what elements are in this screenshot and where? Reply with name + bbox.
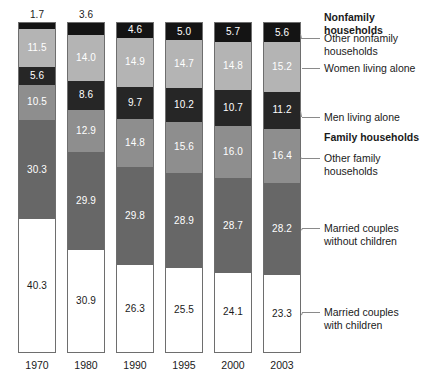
x-axis-tick-label: 2000 — [221, 359, 244, 371]
x-axis-tick-label: 1995 — [172, 359, 195, 371]
bar-segment[interactable]: 28.2 — [264, 183, 300, 276]
segment-value-label: 23.3 — [272, 309, 292, 319]
segment-value-label: 10.7 — [223, 103, 243, 113]
legend-item-label[interactable]: Married couples without children — [324, 222, 399, 247]
legend-leader-line — [302, 38, 320, 39]
bar-segment[interactable]: 29.9 — [68, 152, 104, 250]
stacked-bar[interactable]: 4.614.99.714.829.826.3 — [116, 22, 154, 353]
stacked-bar[interactable]: 1.711.55.610.530.340.3 — [18, 22, 56, 353]
bar-group-1990: 4.614.99.714.829.826.31990 — [116, 22, 154, 353]
segment-value-label: 15.2 — [272, 62, 292, 72]
bar-segment[interactable]: 4.6 — [117, 23, 153, 38]
segment-value-label: 5.6 — [30, 71, 44, 81]
bar-segment[interactable]: 16.0 — [215, 126, 251, 179]
segment-value-label: 15.6 — [174, 142, 194, 152]
bar-segment[interactable]: 30.3 — [19, 120, 55, 220]
legend-leader-line — [302, 117, 320, 118]
bar-segment[interactable]: 5.0 — [166, 23, 202, 39]
stacked-bar[interactable]: 5.615.211.216.428.223.3 — [263, 22, 301, 353]
legend-leader-connector — [300, 157, 302, 159]
bar-segment[interactable]: 10.5 — [19, 85, 55, 120]
legend-group-heading: Family households — [324, 131, 419, 144]
legend-item-label[interactable]: Men living alone — [324, 111, 400, 124]
bar-segment[interactable]: 8.6 — [68, 81, 104, 109]
segment-value-label: 29.9 — [76, 196, 96, 206]
legend-item-label[interactable]: Other family households — [324, 152, 381, 177]
bar-segment[interactable]: 26.3 — [117, 265, 153, 352]
legend-leader-line — [302, 158, 320, 159]
segment-value-label: 11.5 — [27, 43, 46, 53]
legend-leader-line — [302, 68, 320, 69]
bar-segment[interactable]: 11.2 — [264, 92, 300, 129]
segment-value-label: 14.8 — [125, 138, 145, 148]
segment-value-label: 5.7 — [226, 27, 240, 37]
bar-segment[interactable]: 40.3 — [19, 219, 55, 352]
bar-group-1995: 5.014.710.215.628.925.51995 — [165, 22, 203, 353]
legend-item-label[interactable]: Women living alone — [324, 62, 415, 75]
bar-segment[interactable]: 12.9 — [68, 110, 104, 152]
bar-segment[interactable]: 10.7 — [215, 90, 251, 125]
chart-plot-area: 1.711.55.610.530.340.319703.614.08.612.9… — [0, 0, 300, 386]
legend-leader-connector — [301, 312, 303, 315]
bar-segment[interactable]: 5.6 — [19, 67, 55, 85]
segment-value-label: 14.9 — [125, 57, 145, 67]
segment-value-label: 28.2 — [272, 224, 292, 234]
bar-segment[interactable]: 14.8 — [117, 119, 153, 168]
bar-segment[interactable]: 14.9 — [117, 38, 153, 87]
segment-value-label: 25.5 — [174, 305, 194, 315]
bar-segment[interactable]: 23.3 — [264, 275, 300, 352]
segment-value-label: 30.3 — [27, 165, 47, 175]
bar-segment[interactable]: 24.1 — [215, 273, 251, 352]
bar-segment[interactable]: 14.8 — [215, 42, 251, 91]
stacked-bar[interactable]: 5.714.810.716.028.724.1 — [214, 22, 252, 353]
bar-segment[interactable]: 29.8 — [117, 167, 153, 265]
x-axis-tick-label: 1980 — [74, 359, 97, 371]
segment-value-label: 30.9 — [76, 296, 96, 306]
segment-value-label: 10.2 — [174, 100, 194, 110]
segment-value-label: 28.7 — [223, 221, 243, 231]
bar-segment[interactable]: 9.7 — [117, 87, 153, 119]
bar-segment[interactable]: 14.7 — [166, 40, 202, 88]
stacked-bar[interactable]: 5.014.710.215.628.925.5 — [165, 22, 203, 353]
bar-segment[interactable]: 15.2 — [264, 42, 300, 92]
segment-value-label: 8.6 — [79, 90, 93, 100]
x-axis-tick-label: 1990 — [123, 359, 146, 371]
segment-value-label: 11.2 — [272, 105, 291, 115]
segment-value-label: 3.6 — [79, 10, 93, 20]
bar-group-1970: 1.711.55.610.530.340.31970 — [18, 22, 56, 353]
segment-value-label: 14.7 — [174, 59, 194, 69]
bar-segment[interactable]: 15.6 — [166, 122, 202, 173]
bar-segment[interactable]: 28.9 — [166, 173, 202, 268]
segment-value-label: 40.3 — [27, 281, 47, 291]
legend-item-label[interactable]: Other nonfamily households — [324, 32, 398, 57]
bar-segment[interactable]: 16.4 — [264, 129, 300, 183]
bar-segment[interactable]: 28.7 — [215, 178, 251, 272]
bar-segment[interactable]: 5.6 — [264, 23, 300, 41]
bar-group-2003: 5.615.211.216.428.223.32003 — [263, 22, 301, 353]
chart-legend: Nonfamily householdsOther nonfamily hous… — [300, 0, 427, 386]
segment-value-label: 5.6 — [275, 28, 289, 38]
bar-segment[interactable]: 3.6 — [68, 23, 104, 35]
segment-value-label: 16.0 — [223, 147, 243, 157]
segment-value-label: 4.6 — [128, 25, 142, 35]
bar-segment[interactable]: 14.0 — [68, 35, 104, 81]
segment-value-label: 26.3 — [125, 304, 145, 314]
segment-value-label: 9.7 — [128, 98, 142, 108]
bar-segment[interactable]: 5.7 — [215, 23, 251, 42]
legend-item-label[interactable]: Married couples with children — [324, 306, 399, 331]
segment-value-label: 29.8 — [125, 211, 145, 221]
stacked-bar[interactable]: 3.614.08.612.929.930.9 — [67, 22, 105, 353]
segment-value-label: 16.4 — [272, 151, 292, 161]
segment-value-label: 10.5 — [27, 97, 47, 107]
legend-leader-line — [302, 312, 320, 313]
bar-segment[interactable]: 30.9 — [68, 250, 104, 352]
bar-segment[interactable]: 25.5 — [166, 268, 202, 352]
segment-value-label: 12.9 — [76, 126, 96, 136]
segment-value-label: 28.9 — [174, 216, 194, 226]
legend-leader-connector — [301, 228, 303, 230]
x-axis-tick-label: 1970 — [25, 359, 48, 371]
legend-leader-connector — [300, 111, 302, 117]
bar-segment[interactable]: 11.5 — [19, 29, 55, 67]
segment-value-label: 24.1 — [223, 307, 243, 317]
bar-segment[interactable]: 10.2 — [166, 88, 202, 122]
